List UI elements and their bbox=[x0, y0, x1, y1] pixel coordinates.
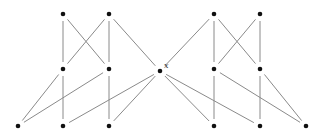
node-label-x: x bbox=[164, 61, 169, 70]
node-e2 bbox=[258, 67, 263, 72]
edge-x-c2 bbox=[69, 74, 154, 122]
node-c1 bbox=[16, 124, 21, 129]
labels-group: x bbox=[164, 61, 169, 70]
node-x bbox=[158, 69, 163, 74]
edge-d1-x bbox=[165, 19, 209, 66]
edge-a2-x bbox=[114, 19, 156, 66]
node-b2 bbox=[107, 67, 112, 72]
node-d2 bbox=[258, 12, 263, 17]
node-d1 bbox=[212, 12, 217, 17]
node-a2 bbox=[107, 12, 112, 17]
node-c2 bbox=[61, 124, 66, 129]
node-a1 bbox=[61, 12, 66, 17]
edge-x-f2 bbox=[166, 74, 254, 122]
edge-e2-f3 bbox=[264, 74, 301, 120]
edge-b1-c1 bbox=[22, 74, 58, 120]
edge-x-c3 bbox=[114, 76, 155, 121]
node-c3 bbox=[107, 124, 112, 129]
node-f3 bbox=[304, 124, 309, 129]
node-f2 bbox=[258, 124, 263, 129]
node-b1 bbox=[61, 67, 66, 72]
nodes-group bbox=[16, 12, 309, 129]
node-f1 bbox=[212, 124, 217, 129]
node-e1 bbox=[212, 67, 217, 72]
edge-x-f1 bbox=[165, 76, 209, 121]
hasse-diagram: x bbox=[0, 0, 324, 134]
edge-b2-c1 bbox=[24, 73, 103, 123]
